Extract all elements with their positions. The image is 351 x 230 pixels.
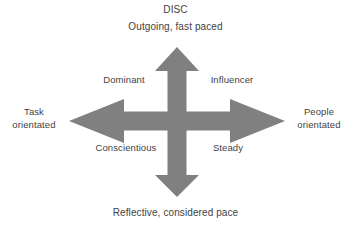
- quadrant-label-dominant: Dominant: [88, 74, 160, 87]
- disc-model-diagram: DISC Outgoing, fast paced Dominant Influ…: [0, 0, 351, 230]
- cross-arrow-shape: [69, 47, 285, 197]
- axis-label-left-line1: Task: [24, 106, 44, 117]
- quadrant-label-steady: Steady: [192, 142, 264, 155]
- quadrant-label-influencer: Influencer: [196, 74, 268, 87]
- axis-label-right-line2: orientated: [297, 119, 340, 130]
- axis-label-bottom: Reflective, considered pace: [0, 207, 351, 220]
- axis-label-right-line1: People: [304, 106, 334, 117]
- quadrant-label-conscientious: Conscientious: [84, 142, 168, 155]
- axis-label-left: Task orientated: [2, 105, 66, 131]
- axis-label-left-line2: orientated: [12, 119, 55, 130]
- axis-label-right: People orientated: [288, 105, 350, 131]
